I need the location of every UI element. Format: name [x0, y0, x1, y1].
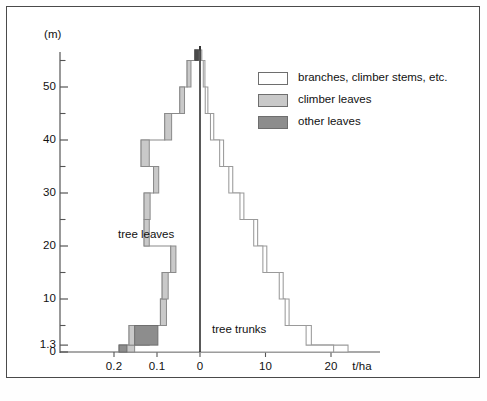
- climber-leaves-band: [187, 61, 191, 88]
- other-leaves-block: [119, 345, 127, 352]
- climber-leaves-band: [141, 140, 149, 167]
- profile-chart-svg: [0, 0, 487, 401]
- climber-leaves-band: [144, 193, 150, 220]
- legend-swatch-2: [258, 116, 288, 129]
- x-tick-label-zero: 0: [182, 360, 218, 372]
- y-tick-label-30: 30: [26, 186, 56, 198]
- other-leaves-crown-tip: [195, 50, 199, 61]
- chart-page: (m) 01.31020304050 0.20.101020t/ha branc…: [0, 0, 487, 401]
- y-tick-label-10: 10: [26, 292, 56, 304]
- annotation-tree-leaves: tree leaves: [118, 228, 174, 240]
- x-axis-unit-label: t/ha: [344, 360, 380, 372]
- climber-leaves-band: [160, 299, 166, 326]
- y-tick-label-1-3: 1.3: [26, 338, 56, 350]
- legend-label-1: climber leaves: [298, 93, 372, 105]
- legend-swatch-1: [258, 94, 288, 107]
- x-tick-label-left-1: 0.1: [139, 360, 175, 372]
- climber-leaves-band: [154, 167, 159, 194]
- legend-swatch-0: [258, 72, 288, 85]
- y-tick-label-50: 50: [26, 80, 56, 92]
- annotation-tree-trunks: tree trunks: [212, 323, 266, 335]
- y-axis-unit-label: (m): [44, 28, 62, 40]
- x-tick-label-right-0: 10: [248, 360, 284, 372]
- climber-leaves-band: [165, 114, 172, 141]
- climber-leaves-band: [180, 87, 185, 114]
- y-tick-label-40: 40: [26, 133, 56, 145]
- climber-leaves-band: [171, 246, 176, 273]
- y-tick-label-20: 20: [26, 239, 56, 251]
- legend-label-0: branches, climber stems, etc.: [298, 71, 448, 83]
- tree-leaves-profile: [119, 50, 200, 352]
- legend-label-2: other leaves: [298, 115, 361, 127]
- climber-leaves-band: [162, 273, 168, 300]
- x-tick-label-left-0: 0.2: [96, 360, 132, 372]
- other-leaves-block: [135, 326, 158, 346]
